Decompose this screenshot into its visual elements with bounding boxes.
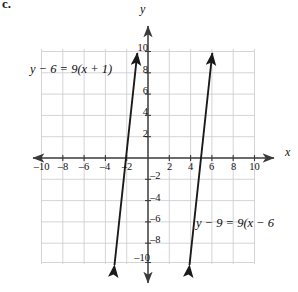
xtick-label: –8 <box>53 161 73 172</box>
xtick-label: –10 <box>30 161 53 172</box>
xtick-label: –2 <box>117 161 137 172</box>
ytick-label: –6 <box>150 213 170 224</box>
ytick-label: 4 <box>131 106 148 117</box>
x-axis-label: x <box>285 145 290 160</box>
coordinate-plane <box>0 0 298 292</box>
xtick-label: 10 <box>246 161 263 172</box>
ytick-label: –2 <box>150 170 170 181</box>
xtick-label: 8 <box>227 161 240 172</box>
xtick-label: 6 <box>205 161 218 172</box>
xtick-label: –6 <box>74 161 94 172</box>
xtick-label: –4 <box>95 161 115 172</box>
ytick-label: 2 <box>131 128 148 139</box>
ytick-label: 10 <box>131 42 148 53</box>
y-axis-label: y <box>140 2 145 17</box>
equation-label-2: y − 9 = 9(x − 6 <box>196 216 274 231</box>
graph-figure: c. <box>0 0 298 292</box>
ytick-label: –10 <box>126 252 150 263</box>
ytick-label: –4 <box>150 192 170 203</box>
xtick-label: 4 <box>184 161 197 172</box>
equation-label-1: y − 6 = 9(x + 1) <box>30 62 112 77</box>
plot-line-2 <box>190 53 213 265</box>
ytick-label: 6 <box>131 85 148 96</box>
ytick-label: 8 <box>131 64 148 75</box>
ytick-label: –8 <box>150 234 170 245</box>
